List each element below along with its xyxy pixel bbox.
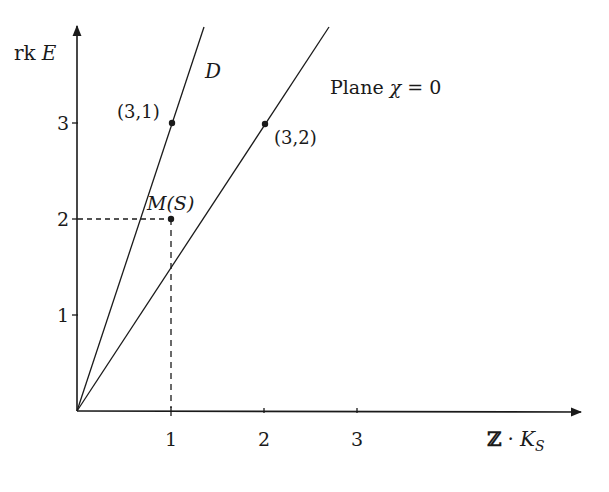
point-MS <box>168 216 174 222</box>
point-3-2-label: (3,2) <box>274 127 317 148</box>
x-tick-label-1: 1 <box>165 428 177 450</box>
point-3-1-label: (3,1) <box>117 101 160 122</box>
diagram-canvas: rkE 3 2 1 1 2 3 ℤ·KS D Planeχ= 0 (3,1) (… <box>0 0 609 492</box>
x-axis <box>77 411 581 412</box>
point-3-1 <box>169 120 175 126</box>
y-tick-label-3: 3 <box>57 112 69 134</box>
x-axis-label: ℤ·KS <box>487 427 545 454</box>
plane-label: Planeχ= 0 <box>330 76 441 98</box>
point-MS-label: M(S) <box>146 192 194 214</box>
point-3-2 <box>262 121 268 127</box>
x-tick-label-2: 2 <box>258 428 270 450</box>
line-D-label: D <box>204 59 221 83</box>
y-axis-label: rkE <box>14 41 57 65</box>
y-tick-label-1: 1 <box>57 304 69 326</box>
y-tick-label-2: 2 <box>57 208 69 230</box>
x-tick-label-3: 3 <box>351 428 363 450</box>
